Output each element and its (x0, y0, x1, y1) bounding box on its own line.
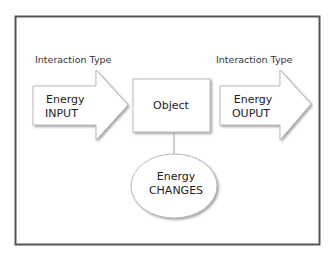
changes-line1: Energy (157, 170, 196, 183)
energy-changes-ellipse: Energy CHANGES (131, 154, 217, 218)
object-box: Object (133, 79, 210, 132)
changes-line2: CHANGES (149, 184, 203, 197)
input-arrow-line1: Energy (46, 93, 85, 106)
output-arrow-line2: OUPUT (232, 107, 270, 120)
energy-diagram: Interaction Type Interaction Type Energy… (0, 0, 331, 255)
output-arrow-line1: Energy (234, 93, 273, 106)
left-interaction-label: Interaction Type (35, 54, 112, 65)
right-interaction-label: Interaction Type (216, 54, 293, 65)
object-label: Object (153, 99, 190, 112)
input-arrow-line2: INPUT (45, 107, 78, 120)
